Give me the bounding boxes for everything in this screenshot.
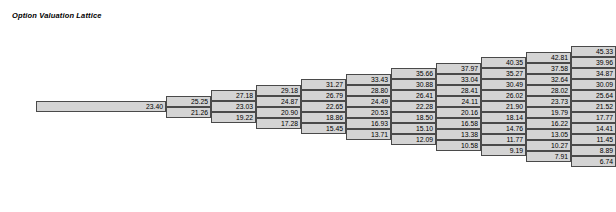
lattice-node: 15.10 <box>391 123 436 134</box>
lattice-node: 19.79 <box>526 107 571 118</box>
lattice-node: 28.02 <box>526 85 571 96</box>
lattice-node: 32.64 <box>526 74 571 85</box>
lattice-node: 12.09 <box>391 134 436 145</box>
lattice-node: 13.05 <box>526 129 571 140</box>
lattice-node: 13.71 <box>346 129 391 140</box>
lattice-node: 22.28 <box>391 101 436 112</box>
lattice-node: 24.87 <box>256 96 301 107</box>
lattice-node: 42.81 <box>526 52 571 63</box>
lattice-node: 14.41 <box>571 123 616 134</box>
lattice-node: 20.90 <box>256 107 301 118</box>
lattice-node: 25.64 <box>571 90 616 101</box>
lattice-node: 16.22 <box>526 118 571 129</box>
lattice-node: 35.27 <box>481 68 526 79</box>
lattice-node: 40.35 <box>481 57 526 68</box>
lattice-node: 10.58 <box>436 140 481 151</box>
lattice-node: 45.33 <box>571 46 616 57</box>
lattice-node: 22.65 <box>301 101 346 112</box>
lattice-node: 15.45 <box>301 123 346 134</box>
lattice-node: 14.76 <box>481 123 526 134</box>
lattice-node: 37.97 <box>436 63 481 74</box>
lattice-node: 8.89 <box>571 145 616 156</box>
lattice-node: 21.90 <box>481 101 526 112</box>
lattice-node: 26.79 <box>301 90 346 101</box>
lattice-node: 26.41 <box>391 90 436 101</box>
lattice-node: 17.28 <box>256 118 301 129</box>
lattice-node: 23.40 <box>36 101 166 112</box>
lattice-node: 6.74 <box>571 156 616 167</box>
lattice-node: 29.18 <box>256 85 301 96</box>
lattice-node: 18.14 <box>481 112 526 123</box>
lattice-node: 21.26 <box>166 107 211 118</box>
lattice-node: 17.77 <box>571 112 616 123</box>
lattice-node: 30.88 <box>391 79 436 90</box>
lattice-node: 16.58 <box>436 118 481 129</box>
lattice-node: 13.38 <box>436 129 481 140</box>
lattice-node: 31.27 <box>301 79 346 90</box>
lattice-node: 10.27 <box>526 140 571 151</box>
lattice-node: 37.58 <box>526 63 571 74</box>
lattice-node: 11.77 <box>481 134 526 145</box>
lattice-node: 27.18 <box>211 90 256 101</box>
lattice-node: 24.49 <box>346 96 391 107</box>
lattice-node: 28.41 <box>436 85 481 96</box>
lattice-node: 21.52 <box>571 101 616 112</box>
lattice-node: 7.91 <box>526 151 571 162</box>
lattice-node: 34.87 <box>571 68 616 79</box>
lattice-node: 23.73 <box>526 96 571 107</box>
lattice-node: 25.25 <box>166 96 211 107</box>
lattice-node: 28.80 <box>346 85 391 96</box>
lattice-node: 18.50 <box>391 112 436 123</box>
lattice-node: 20.16 <box>436 107 481 118</box>
lattice-node: 30.49 <box>481 79 526 90</box>
lattice-node: 19.22 <box>211 112 256 123</box>
lattice-node: 11.45 <box>571 134 616 145</box>
lattice-node: 33.04 <box>436 74 481 85</box>
lattice-node: 26.02 <box>481 90 526 101</box>
lattice-node: 18.86 <box>301 112 346 123</box>
lattice-node: 30.09 <box>571 79 616 90</box>
lattice-node: 16.93 <box>346 118 391 129</box>
lattice-node: 23.03 <box>211 101 256 112</box>
lattice-node: 39.96 <box>571 57 616 68</box>
lattice-node: 35.66 <box>391 68 436 79</box>
lattice-node: 33.43 <box>346 74 391 85</box>
lattice-node: 20.53 <box>346 107 391 118</box>
lattice-node: 24.11 <box>436 96 481 107</box>
lattice-node: 9.19 <box>481 145 526 156</box>
